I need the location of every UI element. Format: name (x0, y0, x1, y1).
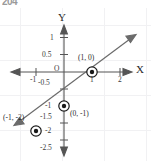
x-axis-label: X (136, 64, 144, 75)
y-tick-label-0p5: 0.5 (42, 51, 51, 59)
point-label-0-neg1: (0, -1) (70, 110, 89, 118)
coordinate-plane (0, 0, 151, 161)
y-tick-label-neg1p5: -1.5 (40, 113, 52, 121)
y-tick-label-neg0p5: -0.5 (38, 79, 50, 87)
x-tick-label-neg1: -1 (30, 76, 36, 84)
y-tick-label-neg1: -1 (45, 102, 51, 110)
y-tick-label-neg2p5: -2.5 (40, 144, 52, 152)
x-tick-label-2: 2 (118, 76, 122, 84)
point-label-1-0: (1, 0) (78, 54, 94, 62)
graph-figure: 204 (0, 0, 151, 161)
y-axis-label: Y (58, 12, 66, 23)
x-tick-label-1: 1 (90, 76, 94, 84)
point-marker-neg1-neg2 (31, 126, 41, 136)
y-tick-label-neg2: -2 (45, 127, 51, 135)
origin-label: O (54, 65, 59, 73)
point-marker-0-neg1 (59, 101, 69, 111)
point-label-neg1-neg2: (-1, -2) (3, 114, 24, 122)
y-tick-label-1: 1 (50, 34, 54, 42)
